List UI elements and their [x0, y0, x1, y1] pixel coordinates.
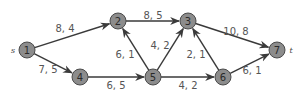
edge-label-5-6: 4, 2 [178, 80, 197, 91]
source-label: s [11, 46, 15, 55]
node-6: 6 [215, 69, 231, 85]
node-label: 6 [220, 72, 226, 83]
node-2: 2 [110, 13, 126, 29]
edge-label-1-2: 8, 4 [55, 23, 74, 34]
node-label: 1 [24, 45, 30, 56]
node-label: 5 [150, 72, 156, 83]
edge-label-5-3: 4, 2 [150, 40, 169, 51]
edge-label-1-4: 7, 5 [38, 64, 57, 75]
edge-label-6-3: 2, 1 [186, 49, 205, 60]
edge-label-6-7: 6, 1 [242, 65, 261, 76]
node-1: 1 [19, 42, 35, 58]
flow-network-diagram: 8, 47, 58, 56, 14, 26, 54, 22, 110, 86, … [0, 0, 299, 93]
node-3: 3 [180, 13, 196, 29]
edge-label-4-5: 6, 5 [106, 80, 125, 91]
edge-label-3-7: 10, 8 [223, 26, 248, 37]
node-label: 2 [115, 16, 121, 27]
node-label: 7 [274, 45, 280, 56]
node-label: 4 [77, 72, 83, 83]
node-label: 3 [185, 16, 191, 27]
node-4: 4 [72, 69, 88, 85]
node-7: 7 [269, 42, 285, 58]
edge-label-5-2: 6, 1 [115, 49, 134, 60]
sink-label: t [289, 46, 293, 55]
node-5: 5 [145, 69, 161, 85]
edge-label-2-3: 8, 5 [143, 10, 162, 21]
